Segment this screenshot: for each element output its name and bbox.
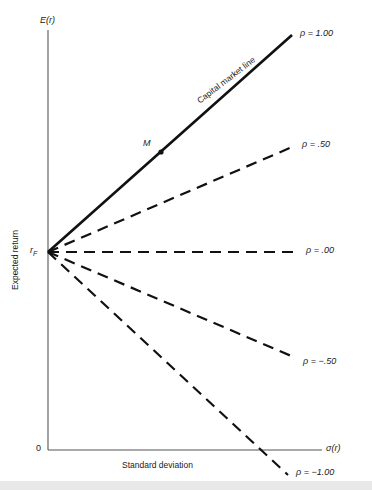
series-label-rho-neg-0-50: ρ = −.50	[303, 357, 336, 366]
x-axis-end-label: σ(r)	[326, 444, 340, 453]
origin-label: 0	[36, 444, 41, 453]
capital-market-line-annotation-wrap: Capital market line	[176, 73, 276, 87]
series-label-rho-0-00: ρ = .00	[306, 246, 334, 255]
y-axis-head-label: E(r)	[40, 16, 55, 25]
rf-label-subscript: F	[33, 250, 37, 257]
series-label-rho-neg-1-00: ρ = −1.00	[296, 468, 334, 477]
y-axis-title: Expected return	[10, 230, 20, 290]
series-line-rho-neg-1-00	[48, 252, 288, 475]
page-edge-strip	[0, 481, 372, 490]
series-label-rho-0-50: ρ = .50	[302, 140, 330, 149]
x-axis-title: Standard deviation	[122, 461, 193, 470]
series-label-rho-1-00: ρ = 1.00	[300, 29, 333, 38]
series-line-rho-neg-0-50	[48, 252, 296, 358]
y-axis-title-wrap: Expected return	[8, 200, 22, 320]
figure-canvas: E(r) Expected return rF 0 Standard devia…	[0, 0, 372, 490]
series-line-rho-0-50	[48, 147, 292, 252]
rf-axis-label: rF	[30, 246, 37, 257]
market-portfolio-marker	[158, 149, 163, 154]
series-line-rho-1-00	[48, 35, 292, 252]
market-portfolio-label: M	[143, 139, 151, 148]
